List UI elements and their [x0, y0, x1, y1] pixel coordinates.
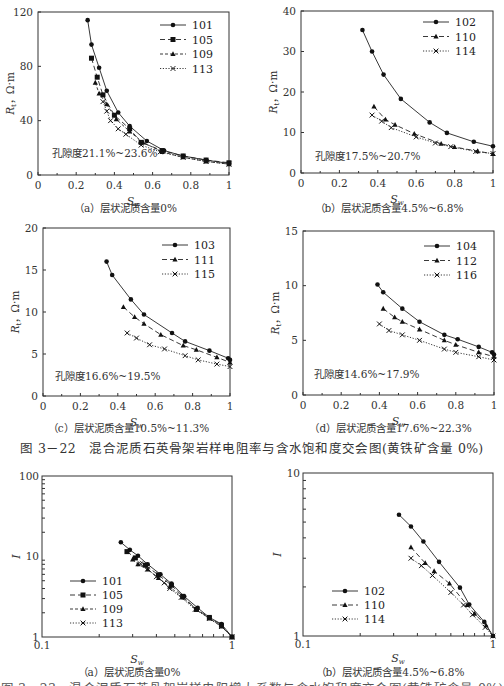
- subplot-caption: （d）层状泥质含量17.6%~22.3%: [309, 422, 471, 434]
- x-tick-label: 0.2: [72, 400, 89, 412]
- y-axis-label: I: [271, 552, 284, 558]
- subplot-caption: （a）层状泥质含量0%: [74, 202, 177, 214]
- x-tick-label: 1: [491, 399, 498, 411]
- series-114: [409, 556, 496, 639]
- y-axis-label: Rt，Ω·m: [4, 72, 18, 116]
- y-axis-label: I: [10, 554, 23, 560]
- legend-item-105: 105: [70, 589, 123, 602]
- series-116: [377, 322, 496, 363]
- y-tick-label: 5: [291, 334, 298, 346]
- legend-label: 102: [364, 585, 385, 598]
- x-tick-label: 0.8: [182, 179, 199, 191]
- y-axis-label: Rt，Ω·m: [9, 291, 23, 335]
- x-tick-label: 1: [226, 179, 233, 191]
- subplot-caption: （b）层状泥质含量4.5%~6.8%: [316, 666, 465, 678]
- legend-label: 112: [456, 255, 477, 268]
- y-axis-label: Rt，Ω·m: [269, 292, 283, 336]
- legend-item-114: 114: [332, 613, 385, 626]
- legend-label: 102: [455, 16, 476, 29]
- y-tick-label: 80: [20, 60, 33, 72]
- y-tick-label: 20: [25, 222, 38, 234]
- chart-f: 0.11110SwI102110114（b）层状泥质含量4.5%~6.8%: [271, 467, 496, 679]
- x-tick-label: 0.6: [147, 400, 164, 412]
- y-tick-label: 0: [291, 389, 298, 401]
- y-tick-label: 100: [19, 470, 39, 482]
- series-109: [130, 557, 235, 639]
- legend-item-116: 116: [424, 269, 477, 282]
- legend-item-115: 115: [162, 268, 215, 281]
- x-tick-label: 0.6: [408, 177, 425, 189]
- x-tick-label: 0.6: [409, 399, 426, 411]
- x-tick-label: 0.4: [106, 179, 123, 191]
- x-tick-label: 0.2: [333, 399, 350, 411]
- x-tick-label: 1: [490, 638, 497, 650]
- y-tick-label: 10: [285, 279, 298, 291]
- legend-item-103: 103: [162, 239, 215, 252]
- subplot-caption: （b）层状泥质含量4.5%~6.8%: [315, 202, 464, 214]
- legend-label: 105: [102, 589, 123, 602]
- x-tick-label: 0: [300, 399, 307, 411]
- legend-item-113: 113: [70, 617, 123, 630]
- legend-item-114: 114: [423, 45, 476, 58]
- legend-item-104: 104: [424, 240, 477, 253]
- series-105: [124, 549, 234, 639]
- legend-label: 115: [194, 268, 215, 281]
- y-tick-label: 1: [32, 631, 39, 643]
- legend-item-110: 110: [332, 599, 385, 612]
- legend-item-105: 105: [160, 34, 213, 47]
- legend-item-111: 111: [162, 254, 215, 267]
- x-tick-label: 0.4: [371, 399, 388, 411]
- chart-c: 00.20.40.60.8105101520SwRt，Ω·m103111115孔…: [9, 222, 233, 435]
- y-axis-label: Rt，Ω·m: [267, 71, 281, 115]
- porosity-annotation: 孔隙度16.6%~19.5%: [55, 370, 161, 382]
- x-tick-label: 1: [227, 400, 234, 412]
- y-tick-label: 20: [283, 86, 296, 98]
- chart-b: 00.20.40.60.81010203040SwRt，Ω·m102110114…: [267, 5, 496, 215]
- x-tick-label: 1: [490, 177, 497, 189]
- porosity-annotation: 孔隙度14.6%~17.9%: [314, 368, 420, 380]
- y-tick-label: 5: [31, 348, 38, 360]
- legend-label: 111: [194, 254, 215, 267]
- legend-label: 104: [456, 240, 477, 253]
- y-tick-label: 0: [26, 169, 33, 181]
- legend-item-110: 110: [423, 31, 476, 44]
- legend-item-109: 109: [70, 603, 123, 616]
- chart-e: 0.11110100SwI101105109113（a）层状泥质含量0%: [10, 470, 235, 679]
- x-tick-label: 0.8: [184, 400, 201, 412]
- legend-label: 101: [192, 19, 213, 32]
- subplot-caption: （a）层状泥质含量0%: [78, 666, 181, 678]
- x-tick-label: 0.2: [68, 179, 85, 191]
- y-tick-label: 10: [287, 467, 300, 479]
- y-tick-label: 120: [13, 6, 33, 18]
- x-tick-label: 0.8: [446, 177, 463, 189]
- legend-label: 113: [102, 617, 123, 630]
- x-tick-label: 0.4: [109, 400, 126, 412]
- x-tick-label: 0: [40, 400, 47, 412]
- series-101: [119, 540, 235, 639]
- x-tick-label: 0: [35, 179, 42, 191]
- legend-label: 114: [455, 45, 476, 58]
- y-tick-label: 10: [26, 550, 39, 562]
- legend-item-102: 102: [332, 585, 385, 598]
- x-tick-label: 1: [229, 639, 236, 651]
- y-tick-label: 15: [285, 225, 298, 237]
- y-tick-label: 10: [25, 306, 38, 318]
- series-111: [121, 304, 233, 364]
- legend-label: 110: [364, 599, 385, 612]
- legend-label: 113: [192, 63, 213, 76]
- legend-item-101: 101: [160, 19, 213, 32]
- legend-item-102: 102: [423, 16, 476, 29]
- y-tick-label: 15: [25, 264, 38, 276]
- legend-label: 105: [192, 34, 213, 47]
- porosity-annotation: 孔隙度21.1%~23.6%: [52, 147, 158, 159]
- y-tick-label: 10: [283, 126, 296, 138]
- chart-d: 00.20.40.60.81051015SwRt，Ω·m104112116孔隙度…: [269, 225, 497, 435]
- legend-item-113: 113: [160, 63, 213, 76]
- x-axis-label: Sw: [391, 652, 405, 666]
- chart-a: 00.20.40.60.8104080120SwRt，Ω·m1011051091…: [4, 6, 232, 215]
- porosity-annotation: 孔隙度17.5%~20.7%: [315, 150, 421, 162]
- legend-label: 103: [194, 239, 215, 252]
- legend-item-109: 109: [160, 48, 213, 61]
- figure-caption-3-23-partial: 图 3－23 混合泥质石英骨架岩样电阻增大系数与含水饱和度交会图(黄铁矿含量 0…: [0, 678, 504, 686]
